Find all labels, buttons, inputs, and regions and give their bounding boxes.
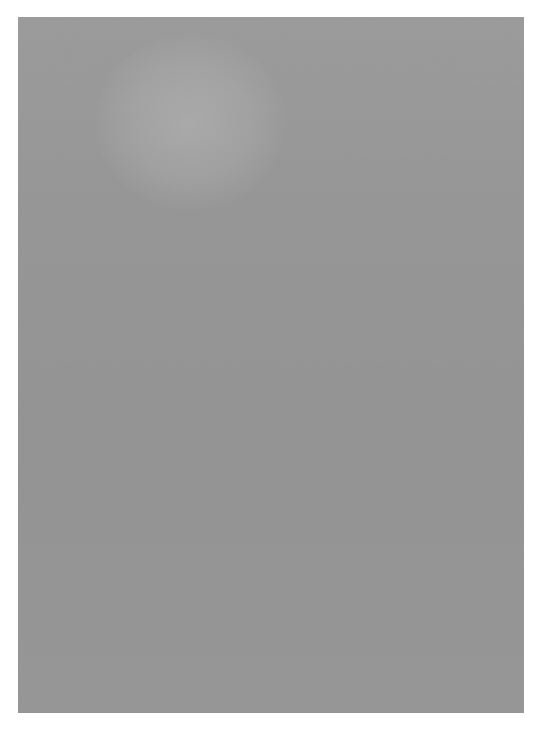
page-root <box>0 0 545 729</box>
grain-blotch-layer <box>18 17 524 713</box>
grain-texture-panel <box>18 17 524 713</box>
